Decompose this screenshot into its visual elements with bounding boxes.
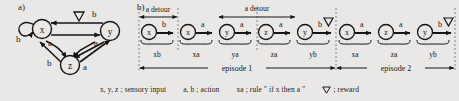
- sequence-step-2: x a xa: [180, 20, 212, 59]
- detour-bracket-1: a detour: [140, 5, 177, 17]
- seq-action-label: b: [318, 20, 322, 29]
- seq-rule-brace: [219, 40, 251, 44]
- seq-rule-label: za: [271, 50, 278, 59]
- seq-action-label: a: [279, 20, 283, 29]
- edge-label-x-self-b: b: [16, 34, 21, 44]
- detour-label-2: a detour: [245, 4, 270, 13]
- sequence-step-3: y a ya: [219, 20, 251, 59]
- episode-1-label: episode 1: [222, 64, 252, 73]
- seq-action-label: b: [162, 20, 166, 29]
- seq-action-label: a: [201, 20, 205, 29]
- seq-action-label: b: [438, 20, 442, 29]
- seq-rule-brace: [297, 40, 329, 44]
- seq-rule-label: za: [391, 50, 398, 59]
- sequence-step-4: z a za: [258, 20, 290, 59]
- reward-triangle-icon: [74, 12, 84, 21]
- sequence-step-7: z a za: [378, 20, 410, 59]
- seq-rule-label: xa: [351, 50, 359, 59]
- legend-reward: ; reward: [333, 85, 359, 94]
- seq-rule-brace: [339, 40, 371, 44]
- seq-action-label: a: [399, 20, 403, 29]
- sequence-step-1: x b xb: [141, 20, 173, 59]
- seq-state-label: x: [186, 28, 190, 37]
- state-transition-graph: b b a a b a x y z: [0, 0, 135, 84]
- edge-label-z-x-b: b: [47, 58, 52, 68]
- episode-2-label: episode 2: [381, 64, 411, 73]
- seq-state-label: z: [384, 28, 388, 37]
- seq-state-label: y: [423, 28, 427, 37]
- reward-triangle-icon: [444, 18, 453, 26]
- detour-bracket-2: a detour: [219, 4, 295, 17]
- episode-sequence-diagram: a detour a detour x b xb x a xa: [135, 0, 459, 84]
- sequence-step-8: y b yb: [417, 18, 453, 59]
- graph-node-x-label: x: [40, 25, 45, 35]
- reward-triangle-icon: [324, 18, 333, 26]
- seq-rule-label: yb: [429, 50, 437, 59]
- graph-node-z-label: z: [68, 61, 72, 71]
- legend: x, y, z ; sensory input a, b ; action xa…: [0, 84, 459, 94]
- legend-reward-triangle-icon: [322, 85, 331, 94]
- seq-rule-label: xb: [153, 50, 161, 59]
- seq-rule-label: ya: [231, 50, 239, 59]
- legend-rule: xa ; rule " if x then a ": [236, 85, 305, 94]
- graph-node-y-label: y: [108, 27, 113, 37]
- seq-rule-brace: [258, 40, 290, 44]
- seq-rule-brace: [417, 40, 449, 44]
- edge-label-y-x-b: b: [92, 9, 97, 19]
- legend-sensory-input: x, y, z ; sensory input: [100, 85, 166, 94]
- seq-state-label: x: [147, 28, 151, 37]
- detour-label-1: a detour: [146, 5, 171, 14]
- seq-action-label: a: [360, 20, 364, 29]
- seq-action-label: a: [240, 20, 244, 29]
- seq-state-label: x: [345, 28, 349, 37]
- seq-rule-label: yb: [309, 50, 317, 59]
- sequence-step-6: x a xa: [339, 20, 371, 59]
- episode-2-span: episode 2: [337, 62, 454, 74]
- edge-x-to-z-curve2: [73, 42, 95, 58]
- figure-root: a) b) b b a a b a: [0, 0, 459, 101]
- legend-action: a, b ; action: [183, 85, 219, 94]
- seq-rule-brace: [141, 40, 173, 44]
- seq-state-label: y: [303, 28, 307, 37]
- seq-state-label: z: [264, 28, 268, 37]
- seq-state-label: y: [225, 28, 229, 37]
- seq-rule-label: xa: [192, 50, 200, 59]
- edge-label-z-y-a: a: [83, 62, 87, 72]
- seq-rule-brace: [180, 40, 212, 44]
- seq-rule-brace: [378, 40, 410, 44]
- sequence-step-5: y b yb: [297, 18, 333, 59]
- episode-1-span: episode 1: [140, 62, 335, 74]
